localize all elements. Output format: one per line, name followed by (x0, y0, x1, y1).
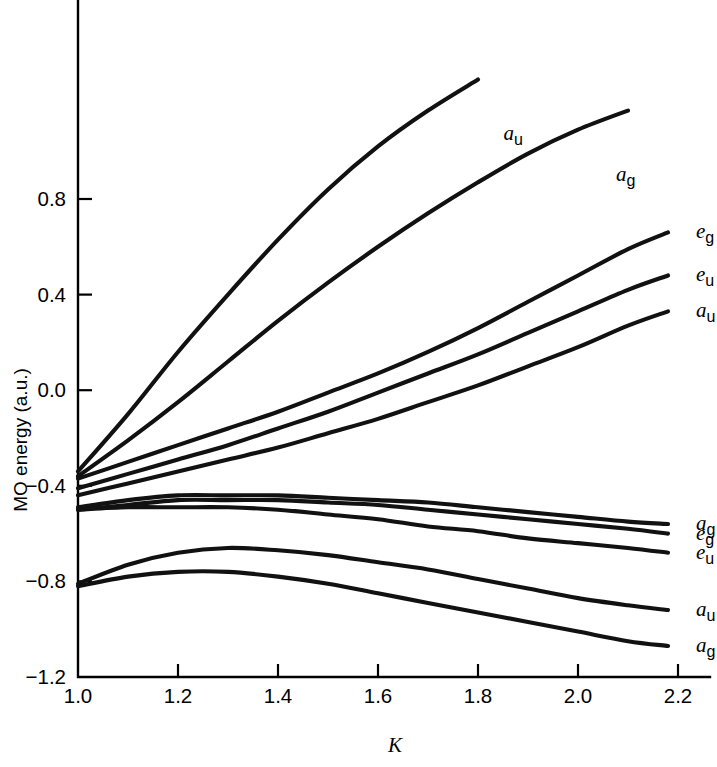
x-tick-label-0: 1.0 (64, 684, 93, 707)
y-tick-label-1: 0.4 (38, 283, 67, 306)
y-tick-label-0: 0.8 (38, 187, 67, 210)
y-tick-label-2: 0.0 (38, 378, 67, 401)
curve-label-3: eu (696, 262, 714, 289)
chart-canvas: 0.80.40.0−0.4−0.8−1.21.01.21.41.61.82.02… (0, 0, 717, 767)
x-tick-label-6: 2.2 (664, 684, 693, 707)
curve-label-8: au (696, 597, 715, 624)
curve-4 (78, 311, 668, 495)
curve-label-0: au (504, 121, 523, 148)
curve-label-2: eg (696, 219, 714, 246)
x-tick-label-2: 1.4 (264, 684, 293, 707)
mo-energy-walsh-diagram: 0.80.40.0−0.4−0.8−1.21.01.21.41.61.82.02… (0, 0, 717, 767)
y-tick-label-5: −1.2 (26, 665, 66, 688)
x-tick-label-1: 1.2 (164, 684, 193, 707)
x-axis-title: K (387, 733, 403, 757)
axis-frame (78, 0, 710, 677)
curve-7 (78, 507, 668, 553)
y-tick-label-4: −0.8 (26, 569, 66, 592)
x-tick-label-5: 2.0 (564, 684, 593, 707)
curve-8 (78, 548, 668, 610)
y-tick-label-3: −0.4 (26, 474, 66, 497)
curve-label-4: au (696, 298, 715, 325)
curve-set (78, 80, 668, 646)
curve-label-1: ag (616, 162, 635, 189)
tick-labels: 0.80.40.0−0.4−0.8−1.21.01.21.41.61.82.02… (26, 187, 693, 707)
curve-3 (78, 275, 668, 488)
x-tick-label-4: 1.8 (464, 684, 493, 707)
curve-2 (78, 232, 668, 478)
curve-labels: auagegeuauagegeuauag (504, 121, 716, 659)
y-axis-title: MO energy (a.u.) (10, 368, 31, 512)
axes (78, 0, 710, 677)
x-tick-label-3: 1.6 (364, 684, 393, 707)
curve-9 (78, 571, 668, 646)
curve-label-9: ag (696, 633, 715, 660)
